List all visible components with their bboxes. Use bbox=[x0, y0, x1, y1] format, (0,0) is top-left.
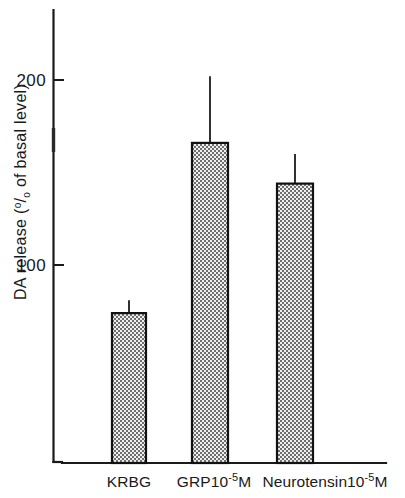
bar-krbg[interactable] bbox=[112, 313, 146, 463]
x-tick-label-neurotensin-base: Neurotensin10 bbox=[262, 473, 364, 490]
x-tick-label-neurotensin: Neurotensin10-5M bbox=[262, 471, 387, 490]
x-tick-label-grp-base: GRP10 bbox=[177, 473, 229, 490]
x-tick-label-krbg: KRBG bbox=[107, 473, 151, 490]
x-tick-label-grp-tail: M bbox=[238, 473, 251, 490]
x-tick-label-neurotensin-tail: M bbox=[375, 473, 388, 490]
figure-container: 200 100 DA release (o/o of basal level) … bbox=[0, 0, 405, 498]
bar-chart: 200 100 DA release (o/o of basal level) … bbox=[0, 0, 405, 498]
x-tick-label-krbg-base: KRBG bbox=[107, 473, 151, 490]
x-tick-label-neurotensin-exponent: -5 bbox=[365, 471, 375, 483]
x-tick-label-grp: GRP10-5M bbox=[177, 471, 251, 490]
bar-group-krbg[interactable] bbox=[112, 300, 146, 463]
x-tick-label-grp-exponent: -5 bbox=[228, 471, 238, 483]
bar-grp[interactable] bbox=[192, 143, 228, 463]
bar-neurotensin[interactable] bbox=[277, 184, 313, 463]
bar-group-grp[interactable] bbox=[192, 76, 228, 463]
y-axis-title-suffix: of basal level) bbox=[12, 84, 29, 192]
y-axis-title-prefix: DA release ( bbox=[12, 208, 29, 300]
bar-group-neurotensin[interactable] bbox=[277, 154, 313, 463]
